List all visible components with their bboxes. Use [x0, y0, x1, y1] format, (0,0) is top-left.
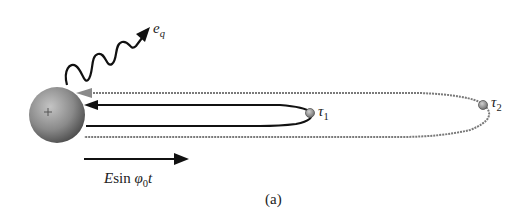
hhg-trajectory-diagram: [0, 0, 524, 222]
emission-label: eq: [153, 20, 165, 39]
tau1-subscript: 1: [323, 111, 328, 122]
long-return-arrowhead: [76, 88, 92, 98]
electron-tau1-icon: [306, 109, 315, 118]
nucleus-sphere: [29, 87, 85, 143]
field-arrowhead-icon: [174, 153, 189, 165]
field-label: Esin φ0t: [104, 170, 152, 189]
photon-arrowhead-icon: [136, 27, 150, 42]
long-trajectory: [76, 88, 489, 137]
photon-emission: [66, 27, 150, 85]
field-sin: sin: [113, 170, 131, 186]
emission-symbol: e: [153, 20, 160, 36]
field-arrow: [84, 153, 189, 165]
short-return-arrowhead: [84, 100, 98, 110]
tau2-label: τ2: [491, 94, 502, 113]
short-trajectory: [84, 100, 311, 126]
field-t: t: [148, 170, 152, 186]
tau2-subscript: 2: [496, 102, 501, 113]
emission-subscript: q: [160, 28, 165, 39]
electron-tau2-icon: [479, 101, 488, 110]
field-E: E: [104, 170, 113, 186]
field-phi: φ: [134, 170, 142, 186]
figure-caption: (a): [265, 191, 282, 208]
tau1-label: τ1: [318, 103, 329, 122]
